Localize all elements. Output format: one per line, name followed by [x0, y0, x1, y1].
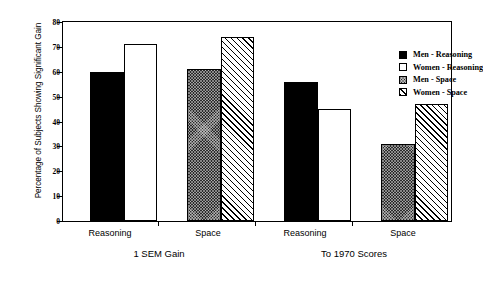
legend-label-men-reasoning: Men - Reasoning — [413, 50, 472, 59]
x-label-space-1970: Space — [390, 228, 416, 238]
x-tick-separator-1 — [158, 221, 159, 226]
diagonal-hatch-swatch-icon — [399, 88, 407, 96]
y-tick-label-10: 10 — [53, 192, 61, 201]
bar-men-reasoning-1sem — [90, 72, 124, 221]
y-tick-label-60: 60 — [53, 67, 61, 76]
x-tick-separator-3 — [352, 221, 353, 226]
bar-women-space-1970 — [415, 104, 449, 221]
y-tick-label-30: 30 — [53, 142, 61, 151]
y-tick-label-50: 50 — [53, 92, 61, 101]
y-tick-label-0: 0 — [56, 217, 60, 226]
solid-black-swatch-icon — [399, 51, 407, 59]
x-group-label-1sem-gain: 1 SEM Gain — [133, 248, 184, 259]
bar-women-reasoning-1970 — [318, 109, 352, 221]
bar-men-reasoning-1970 — [284, 82, 318, 221]
bar-men-space-1sem — [187, 69, 221, 221]
bar-men-space-1970 — [381, 144, 415, 221]
y-tick-label-20: 20 — [53, 167, 61, 176]
legend-item-women-reasoning: Women - Reasoning — [399, 63, 483, 72]
legend-label-men-space: Men - Space — [413, 75, 456, 84]
bars-container — [63, 22, 451, 221]
bar-women-space-1sem — [221, 37, 255, 221]
y-axis-title: Percentage of Subjects Showing Significa… — [34, 0, 43, 228]
x-group-label-1970-scores: To 1970 Scores — [321, 248, 387, 259]
bar-women-reasoning-1sem — [124, 44, 158, 221]
legend-item-women-space: Women - Space — [399, 88, 483, 97]
x-label-reasoning-1sem: Reasoning — [88, 228, 131, 238]
legend-item-men-reasoning: Men - Reasoning — [399, 50, 483, 59]
y-tick-label-80: 80 — [53, 18, 61, 27]
legend-item-men-space: Men - Space — [399, 75, 483, 84]
chart-legend: Men - Reasoning Women - Reasoning Men - … — [399, 50, 483, 97]
y-tick-label-40: 40 — [53, 117, 61, 126]
open-white-swatch-icon — [399, 63, 407, 71]
plot-area: 80 70 60 50 40 30 20 10 0 — [62, 21, 452, 222]
y-tick-label-70: 70 — [53, 42, 61, 51]
x-tick-separator-2 — [255, 221, 256, 226]
legend-label-women-reasoning: Women - Reasoning — [413, 63, 483, 72]
dense-crosshatch-swatch-icon — [399, 76, 407, 84]
legend-label-women-space: Women - Space — [413, 88, 467, 97]
x-label-reasoning-1970: Reasoning — [283, 228, 326, 238]
x-label-space-1sem: Space — [195, 228, 221, 238]
